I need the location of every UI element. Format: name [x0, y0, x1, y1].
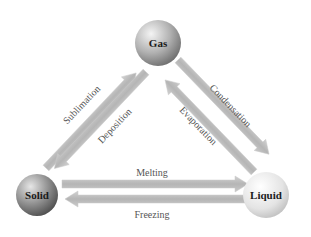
melting-arrow [62, 176, 248, 192]
freezing-label: Freezing [135, 209, 170, 220]
freezing-arrow [65, 191, 250, 207]
solid-label: Solid [25, 189, 49, 201]
liquid-label: Liquid [250, 189, 282, 201]
melting-label: Melting [136, 167, 168, 178]
gas-state: Gas [135, 20, 181, 66]
solid-state: Solid [16, 174, 58, 216]
condensation-label: Condensation [207, 82, 253, 129]
liquid-state: Liquid [243, 172, 289, 218]
gas-label: Gas [149, 37, 168, 49]
phase-change-diagram: Gas Solid Liquid Melting Freezing Sublim… [0, 0, 311, 237]
